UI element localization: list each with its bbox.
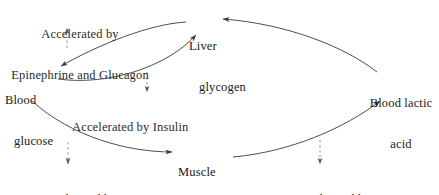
annotation-epinephrine-glucagon-line2: Epinephrine and Glucagon [11, 69, 149, 83]
annotation-epinephrine-muscle: Accelerated by Epinephrine [293, 166, 370, 195]
node-liver-glycogen: Liver glycogen [189, 13, 246, 121]
node-blood-lactic-acid-line2: acid [370, 138, 433, 152]
node-liver-glycogen-line2: glycogen [189, 81, 246, 95]
node-blood-lactic-acid: Blood lactic acid [370, 70, 433, 178]
annotation-epinephrine-glucagon: Accelerated by Epinephrine and Glucagon [11, 1, 149, 109]
annotation-insulin-liver-line1: Accelerated by Insulin [72, 121, 188, 135]
node-liver-glycogen-line1: Liver [189, 40, 246, 54]
arrow-blood-lactic-acid-to-liver-glycogen [223, 19, 377, 72]
annotation-insulin-muscle: Accelerated by Insulin [39, 166, 116, 195]
node-muscle-glycogen-line1: Muscle [178, 166, 233, 180]
node-blood-glucose-line2: glucose [5, 135, 53, 149]
annotation-epinephrine-glucagon-line1: Accelerated by [11, 28, 149, 42]
annotation-insulin-muscle-line1: Accelerated by [39, 193, 116, 195]
annotation-epinephrine-muscle-line1: Accelerated by [293, 193, 370, 195]
annotation-insulin-liver: Accelerated by Insulin [72, 94, 188, 162]
node-blood-lactic-acid-line1: Blood lactic [370, 97, 433, 111]
diagram-canvas: Blood glucose Liver glycogen Blood lacti… [0, 0, 439, 195]
arrow-muscle-glycogen-to-blood-lactic-acid [233, 101, 380, 157]
